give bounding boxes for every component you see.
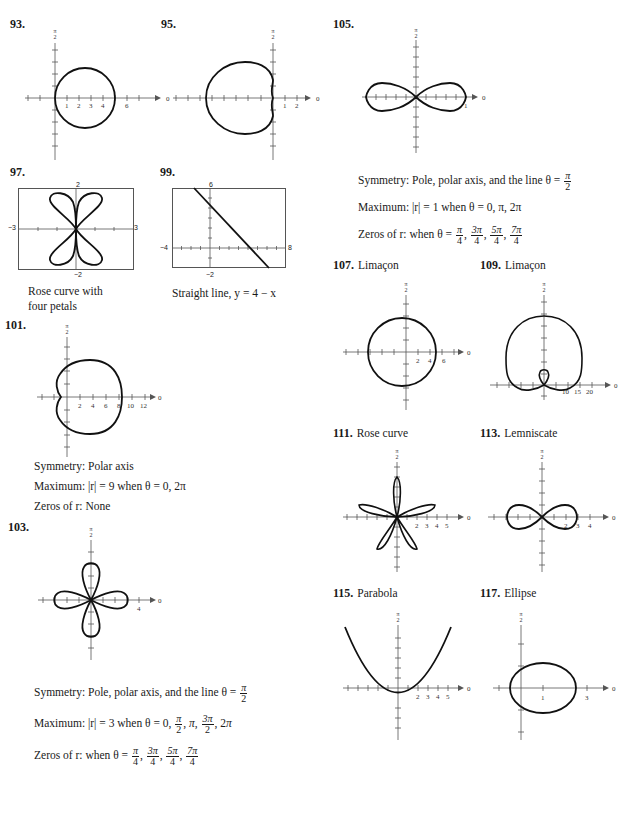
svg-text:12: 12 [140,402,148,410]
fraction-den: 2 [240,694,247,704]
problem-111-label: Rose curve [357,427,408,439]
fraction: π2 [564,171,571,192]
problem-115-number: 115. [333,586,353,600]
svg-text:0: 0 [612,685,616,693]
svg-text:2: 2 [272,34,275,40]
svg-text:3: 3 [425,522,429,530]
svg-text:4: 4 [436,693,440,701]
problem-109-header: 109. Limaçon [480,255,546,273]
zeros-103: Zeros of r: when θ = π4, 3π4, 5π4, 7π4 [34,746,199,767]
xlim-left: −4 [160,244,168,251]
svg-text:2: 2 [397,617,400,623]
problem-117-number: 117. [480,586,500,600]
svg-text:0: 0 [467,349,471,357]
svg-text:2: 2 [520,617,523,623]
fraction: 3π4 [147,746,159,767]
svg-text:2: 2 [416,357,420,365]
svg-text:1: 1 [65,102,69,110]
fraction-den: 2 [564,182,571,192]
svg-text:15: 15 [574,388,582,396]
svg-text:0: 0 [614,382,618,390]
problem-113-label: Lemniscate [504,427,557,439]
svg-text:2: 2 [416,693,420,701]
problem-115-label: Parabola [357,587,397,599]
svg-text:2: 2 [415,33,418,39]
maximum-103-value: π [189,717,195,729]
svg-text:0: 0 [158,597,162,605]
problem-107-header: 107. Limaçon [333,255,399,273]
svg-text:0: 0 [467,514,471,522]
graph-101: π2 0 24681012 [30,322,170,457]
zeros-105: Zeros of r: when θ = π4, 3π4, 5π4, 7π4 [358,225,523,246]
svg-text:6: 6 [104,402,108,410]
fraction: 3π4 [471,225,483,246]
graph-109: π2 0 101520 [488,280,618,400]
graph-99 [172,188,286,268]
fraction: 7π4 [186,746,198,767]
svg-text:10: 10 [127,402,135,410]
svg-text:2: 2 [54,34,57,40]
problem-99-number: 99. [160,165,175,180]
zeros-103-text: Zeros of r: when θ = [34,749,128,761]
fraction: 5π4 [166,746,178,767]
maximum-105: Maximum: |r| = 1 when θ = 0, π, 2π [358,201,521,213]
zeros-101: Zeros of r: None [34,500,110,512]
fraction: π2 [240,683,247,704]
svg-text:1: 1 [283,102,287,110]
problem-113-header: 113. Lemniscate [480,423,557,441]
ylim-bottom: −2 [206,271,214,278]
svg-text:6: 6 [442,357,446,365]
graph-103: π2 0 4 [30,525,170,665]
symmetry-101: Symmetry: Polar axis [34,460,134,472]
svg-text:2: 2 [396,454,399,460]
symmetry-103-text: Symmetry: Pole, polar axis, and the line… [34,686,236,698]
svg-text:0: 0 [158,394,162,402]
svg-text:6: 6 [125,102,129,110]
problem-113-number: 113. [480,426,500,440]
xlim-right: 3 [134,224,138,231]
svg-text:0: 0 [316,95,320,103]
svg-text:4: 4 [435,522,439,530]
svg-text:2: 2 [66,329,69,335]
graph-111: π2 0 2345 [340,447,470,572]
svg-text:2: 2 [405,287,408,293]
symmetry-103: Symmetry: Pole, polar axis, and the line… [34,683,248,704]
svg-text:5: 5 [445,522,449,530]
svg-text:1: 1 [541,694,545,702]
graph-117: π2 0 13 [488,610,618,740]
problem-109-label: Limaçon [505,259,546,271]
graph-115: π2 0 2345 [340,610,470,740]
problem-103-number: 103. [8,520,29,535]
svg-text:2: 2 [541,454,544,460]
svg-text:2: 2 [77,102,81,110]
svg-text:0: 0 [482,94,486,102]
problem-111-number: 111. [333,426,353,440]
svg-text:4: 4 [137,605,141,613]
caption-97-line1: Rose curve with [28,285,103,297]
svg-text:2: 2 [415,522,419,530]
xlim-left: −3 [8,224,16,231]
svg-text:5: 5 [446,693,450,701]
fraction: 5π4 [490,225,502,246]
svg-text:2: 2 [295,102,299,110]
problem-107-label: Limaçon [358,259,399,271]
xlim-right: 8 [288,244,292,251]
svg-text:2: 2 [543,287,546,293]
symmetry-105-text: Symmetry: Pole, polar axis, and the line… [358,174,560,186]
graph-113: π2 0 234 [485,447,620,572]
svg-text:4: 4 [588,522,592,530]
problem-109-number: 109. [480,258,501,272]
problem-115-header: 115. Parabola [333,583,398,601]
svg-text:20: 20 [586,388,594,396]
problem-111-header: 111. Rose curve [333,423,408,441]
svg-text:4: 4 [91,402,95,410]
ylim-top: 2 [76,181,80,188]
ylim-top: 6 [209,181,213,188]
caption-99: Straight line, y = 4 − x [172,287,276,299]
svg-text:2: 2 [78,402,82,410]
problem-105-number: 105. [333,17,354,32]
svg-text:4: 4 [428,357,432,365]
svg-text:3: 3 [426,693,430,701]
symmetry-105: Symmetry: Pole, polar axis, and the line… [358,171,572,192]
svg-text:3: 3 [89,102,93,110]
